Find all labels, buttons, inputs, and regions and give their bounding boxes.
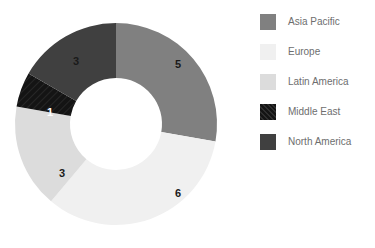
legend-item-asia-pacific[interactable]: Asia Pacific	[260, 14, 375, 30]
donut-svg: 56313	[0, 0, 248, 248]
legend-swatch-asia-pacific	[260, 14, 276, 30]
legend-label-middle-east: Middle East	[288, 104, 340, 120]
legend-label-europe: Europe	[288, 44, 320, 60]
donut-slice[interactable]	[51, 132, 215, 225]
donut-slice-value: 5	[175, 58, 181, 70]
legend-swatch-north-america	[260, 134, 276, 150]
chart-legend: Asia Pacific Europe Latin America Middle…	[260, 14, 375, 164]
donut-chart: 56313 Asia Pacific Europe Latin America …	[0, 0, 375, 248]
legend-swatch-europe	[260, 44, 276, 60]
donut-slices	[15, 23, 217, 225]
legend-item-latin-america[interactable]: Latin America	[260, 74, 375, 90]
donut-plot-area: 56313	[0, 0, 248, 248]
legend-label-asia-pacific: Asia Pacific	[288, 14, 340, 30]
donut-slice-value: 1	[47, 106, 53, 118]
donut-slice-value: 3	[73, 55, 79, 67]
legend-label-north-america: North America	[288, 134, 351, 150]
legend-swatch-middle-east	[260, 104, 276, 120]
legend-swatch-latin-america	[260, 74, 276, 90]
legend-item-north-america[interactable]: North America	[260, 134, 375, 150]
legend-item-europe[interactable]: Europe	[260, 44, 375, 60]
donut-slice-value: 3	[59, 167, 65, 179]
legend-label-latin-america: Latin America	[288, 74, 349, 90]
legend-item-middle-east[interactable]: Middle East	[260, 104, 375, 120]
donut-slice[interactable]	[116, 23, 217, 142]
donut-slice-value: 6	[175, 187, 181, 199]
